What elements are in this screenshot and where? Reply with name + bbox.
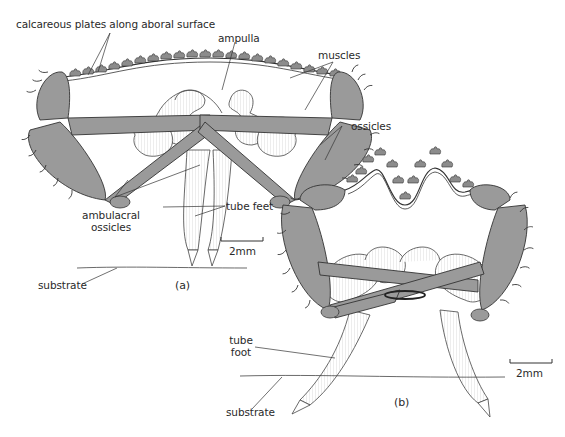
panel-a-drawing — [21, 33, 379, 284]
label-substrate-b: substrate — [226, 406, 275, 418]
scale-bar-b — [510, 359, 552, 363]
label-calcareous-plates: calcareous plates along aboral surface — [16, 18, 215, 30]
scale-bar-a-label: 2mm — [229, 245, 256, 257]
panel-label-a: (a) — [175, 280, 190, 292]
scale-bar-a — [221, 237, 263, 241]
panel-label-b: (b) — [394, 397, 409, 409]
label-ampulla: ampulla — [218, 32, 260, 44]
tube-feet-b — [292, 310, 490, 417]
label-tube-foot-line2: foot — [224, 346, 258, 358]
tube-feet-a — [184, 150, 232, 266]
label-substrate-a: substrate — [38, 279, 87, 291]
panel-b-drawing — [240, 147, 552, 417]
label-ossicles: ossicles — [351, 120, 391, 132]
substrate-line-a — [77, 267, 247, 268]
label-ambulacral-ossicles-line1: ambulacral — [78, 209, 144, 221]
label-muscles: muscles — [318, 49, 360, 61]
label-tube-foot-line1: tube — [224, 334, 258, 346]
label-tube-feet: tube feet — [226, 200, 273, 212]
scale-bar-b-label: 2mm — [516, 367, 543, 379]
label-ambulacral-ossicles-line2: ossicles — [78, 221, 144, 233]
